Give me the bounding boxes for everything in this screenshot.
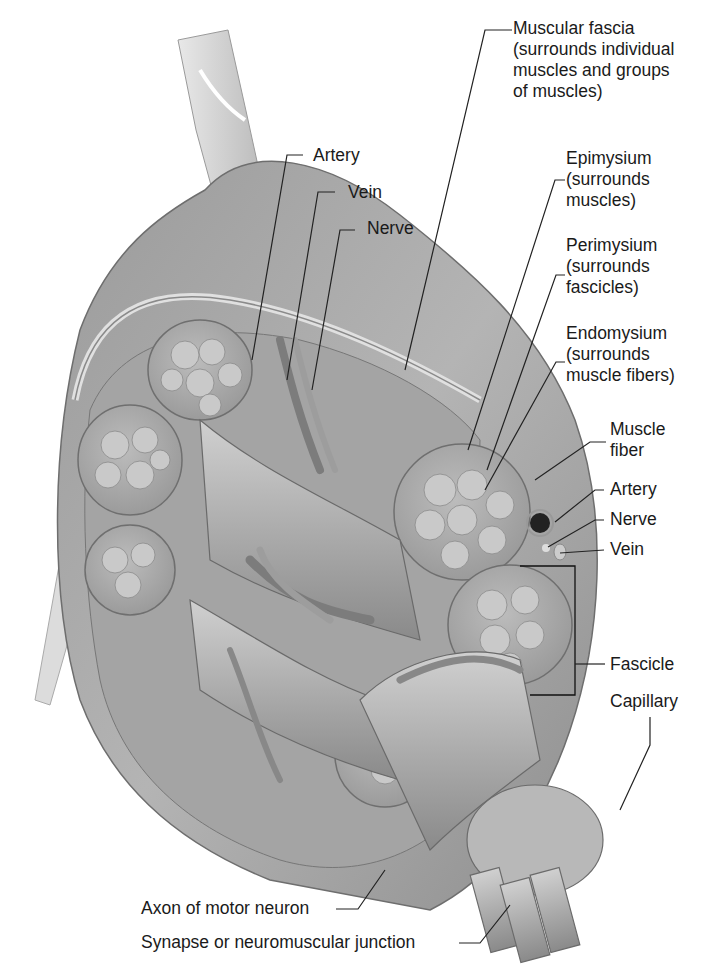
label-synapse: Synapse or neuromuscular junction [141,932,415,953]
label-fascicle: Fascicle [610,654,674,675]
fascicle-end [467,785,603,963]
label-capillary: Capillary [610,691,678,712]
label-nerve-top: Nerve [367,218,414,239]
label-muscular-fascia: Muscular fascia (surrounds individual mu… [513,18,674,102]
label-muscle-fiber: Muscle fiber [610,419,665,461]
label-vein-right: Vein [610,539,644,560]
label-nerve-right: Nerve [610,509,657,530]
label-artery-right: Artery [610,479,657,500]
label-endomysium: Endomysium (surrounds muscle fibers) [566,323,675,386]
label-vein-top: Vein [348,182,382,203]
label-perimysium: Perimysium (surrounds fascicles) [566,235,657,298]
label-epimysium: Epimysium (surrounds muscles) [566,148,652,211]
label-artery-top: Artery [313,145,360,166]
label-axon-of-motor-neuron: Axon of motor neuron [141,898,309,919]
